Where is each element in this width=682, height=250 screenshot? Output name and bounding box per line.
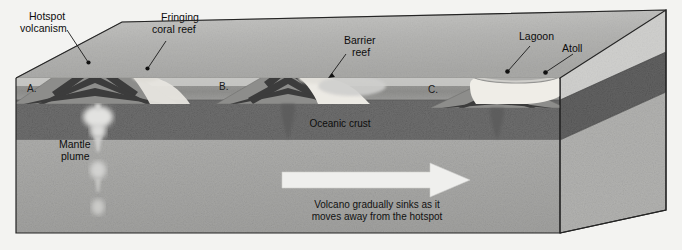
label-hotspot-volcanism-line1: Hotspot <box>29 10 65 22</box>
label-lagoon: Lagoon <box>519 30 554 42</box>
label-fringing-reef-line2: coral reef <box>152 23 196 35</box>
stage-label-b: B. <box>219 81 228 92</box>
stage-label-a: A. <box>27 83 36 94</box>
block-diagram-svg: Hotspot volcanism Fringing coral reef Ba… <box>0 0 682 250</box>
arrow-caption-line2: moves away from the hotspot <box>312 211 443 222</box>
label-barrier-reef-line1: Barrier <box>344 34 376 46</box>
label-barrier-reef-line2: reef <box>352 46 370 58</box>
label-oceanic-crust: Oceanic crust <box>309 118 370 129</box>
label-mantle-plume-line2: plume <box>61 150 90 162</box>
label-mantle-plume-line1: Mantle <box>59 138 91 150</box>
figure-canvas: Hotspot volcanism Fringing coral reef Ba… <box>0 0 682 250</box>
label-atoll: Atoll <box>562 42 582 54</box>
label-hotspot-volcanism-line2: volcanism <box>20 22 67 34</box>
stage-label-c: C. <box>428 84 438 95</box>
lagoon-stage-b <box>318 76 386 96</box>
arrow-caption-line1: Volcano gradually sinks as it <box>314 199 440 210</box>
